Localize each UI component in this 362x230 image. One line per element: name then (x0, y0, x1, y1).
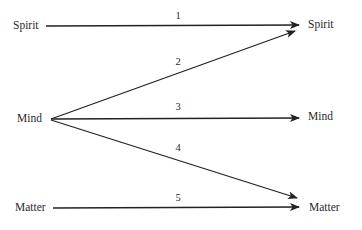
edge-number-4: 4 (175, 143, 180, 154)
edge-number-3: 3 (175, 102, 180, 113)
arrow-5-matter-to-matter (53, 207, 299, 208)
right-label-mind: Mind (308, 111, 333, 123)
arrow-2-mind-to-spirit (51, 31, 295, 119)
right-label-spirit: Spirit (308, 19, 334, 31)
arrow-4-mind-to-matter (51, 120, 297, 198)
edge-number-1: 1 (175, 11, 180, 22)
spirit-mind-matter-diagram: Spirit Mind Matter Spirit Mind Matter 1 … (0, 0, 362, 230)
left-label-spirit: Spirit (13, 20, 39, 32)
right-label-matter: Matter (309, 202, 340, 214)
arrow-3-mind-to-mind (51, 118, 299, 119)
arrow-1-spirit-to-spirit (46, 25, 299, 26)
left-label-mind: Mind (17, 113, 42, 125)
edge-number-5: 5 (175, 193, 180, 204)
edge-number-2: 2 (175, 57, 180, 68)
left-label-matter: Matter (15, 202, 46, 214)
